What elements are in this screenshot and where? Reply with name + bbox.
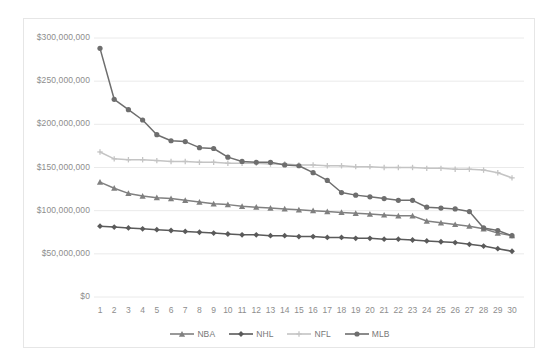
legend-entry-nba[interactable]: NBA [169, 329, 215, 339]
x-axis-label: 30 [503, 305, 521, 315]
legend-marker-nhl-icon [228, 329, 254, 339]
y-axis-label: $200,000,000 [28, 118, 90, 128]
chart-legend: NBANHLNFLMLB [0, 329, 559, 339]
legend-marker-nba-icon [169, 329, 195, 339]
y-axis-label: $100,000,000 [28, 205, 90, 215]
legend-label: MLB [372, 329, 390, 339]
y-axis-label: $50,000,000 [28, 248, 90, 258]
y-axis-label: $250,000,000 [28, 75, 90, 85]
chart-frame [23, 18, 535, 348]
legend-label: NBA [197, 329, 215, 339]
y-axis-label: $300,000,000 [28, 32, 90, 42]
legend-entry-nhl[interactable]: NHL [228, 329, 273, 339]
legend-entry-mlb[interactable]: MLB [344, 329, 390, 339]
legend-marker-nfl-icon [286, 329, 312, 339]
legend-entry-nfl[interactable]: NFL [286, 329, 330, 339]
legend-marker-mlb-icon [344, 329, 370, 339]
legend-label: NFL [314, 329, 330, 339]
legend-label: NHL [256, 329, 273, 339]
y-axis-label: $0 [28, 291, 90, 301]
y-axis-label: $150,000,000 [28, 162, 90, 172]
